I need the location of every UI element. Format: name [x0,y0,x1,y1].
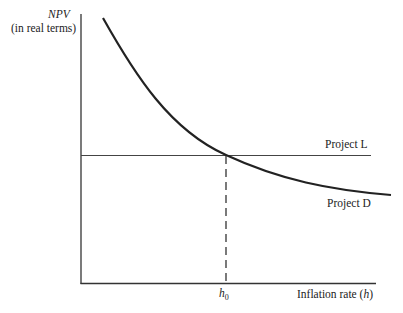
h0-subscript: 0 [225,293,229,302]
legend-project-l: Project L [325,138,367,150]
chart-canvas [0,0,403,313]
y-axis-label-real-terms: (in real terms) [11,22,76,34]
x-axis-label-text: Inflation rate ( [297,288,363,300]
x-axis-label-close: ) [369,288,373,300]
y-axis-label-npv: NPV [48,8,70,20]
project-d-curve [103,18,391,195]
legend-project-d: Project D [327,197,371,209]
x-axis-label: Inflation rate (h) [297,288,373,300]
x-tick-h0: h0 [219,287,229,302]
